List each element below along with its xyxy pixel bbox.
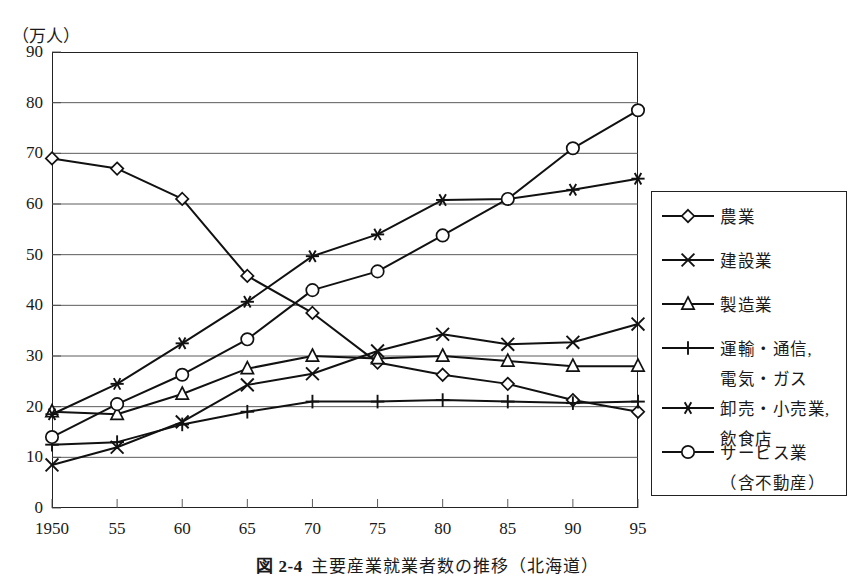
legend-item-5: 卸売・小売業,: [660, 396, 830, 420]
x-axis-tick-label: 65: [239, 520, 256, 537]
y-axis-tick-label: 30: [3, 347, 43, 364]
y-axis-tick-label: 70: [3, 144, 43, 161]
marker-diamond: [436, 369, 448, 381]
legend-item-label: 農業: [720, 204, 755, 228]
marker-circle: [46, 431, 58, 443]
marker-triangle: [437, 349, 449, 361]
legend-symbol-circle: [660, 441, 716, 463]
chart-svg: [52, 52, 638, 508]
legend-item-label: 運輸・通信,: [720, 336, 812, 360]
legend-item-2: 建設業: [660, 248, 773, 272]
marker-circle: [241, 333, 253, 345]
y-axis-tick-label: 90: [3, 43, 43, 60]
legend-item-label: 製造業: [720, 292, 773, 316]
legend-symbol-cross: [660, 249, 716, 271]
legend-symbol-wrap: [660, 205, 716, 227]
legend-item-label: サービス業: [720, 440, 808, 464]
legend-item-label: 卸売・小売業,: [720, 396, 830, 420]
legend-symbol-diamond: [660, 205, 716, 227]
series-line: [52, 356, 638, 414]
marker-circle: [306, 284, 318, 296]
marker-circle: [502, 193, 514, 205]
x-axis-tick-label: 80: [434, 520, 451, 537]
legend-symbol-wrap: [660, 397, 716, 419]
marker-triangle: [306, 349, 318, 361]
figure-caption: 図 2-4主要産業就業者数の推移（北海道）: [0, 552, 855, 577]
marker-circle: [632, 104, 644, 116]
series-line: [52, 158, 638, 411]
x-axis-tick-label: 95: [630, 520, 647, 537]
legend-item-4: 運輸・通信,: [660, 336, 812, 360]
y-axis-tick-label: 50: [3, 246, 43, 263]
figure-caption-text: 主要産業就業者数の推移（北海道）: [311, 557, 599, 576]
x-axis-tick-label: 60: [174, 520, 191, 537]
legend-symbol-triangle: [660, 293, 716, 315]
y-axis-tick-label: 0: [3, 499, 43, 516]
marker-diamond: [111, 162, 123, 174]
x-axis-tick-label: 85: [499, 520, 516, 537]
legend-item-3: 製造業: [660, 292, 773, 316]
series-3: [46, 349, 644, 419]
marker-circle: [436, 229, 448, 241]
legend-item-label-line2: （含不動産）: [720, 470, 825, 494]
legend-symbol-plus: [660, 337, 716, 359]
x-axis-tick-label: 75: [369, 520, 386, 537]
figure-number: 図 2-4: [256, 557, 302, 576]
y-axis-tick-label: 40: [3, 296, 43, 313]
legend-symbol-wrap: [660, 337, 716, 359]
legend-item-6: サービス業: [660, 440, 808, 464]
series-line: [52, 110, 638, 437]
x-axis-tick-label: 70: [304, 520, 321, 537]
legend-symbol-wrap: [660, 249, 716, 271]
marker-circle: [682, 446, 694, 458]
marker-circle: [111, 398, 123, 410]
x-axis-tick-label: 1950: [35, 520, 69, 537]
legend-item-1: 農業: [660, 204, 755, 228]
chart-plot-area: [52, 52, 638, 508]
legend-symbol-wrap: [660, 293, 716, 315]
x-axis-tick-label: 90: [564, 520, 581, 537]
y-axis-tick-label: 20: [3, 398, 43, 415]
series-6: [46, 104, 644, 443]
series-5: [45, 173, 644, 420]
y-axis-tick-label: 80: [3, 94, 43, 111]
marker-circle: [176, 369, 188, 381]
marker-diamond: [46, 152, 58, 164]
legend-symbol-asterisk: [660, 397, 716, 419]
series-line: [52, 179, 638, 415]
legend-item-label: 建設業: [720, 248, 773, 272]
legend-item-label-line2: 電気・ガス: [720, 366, 808, 390]
marker-diamond: [502, 378, 514, 390]
x-axis-tick-label: 55: [109, 520, 126, 537]
marker-circle: [371, 265, 383, 277]
marker-diamond: [682, 210, 694, 222]
legend-symbol-wrap: [660, 441, 716, 463]
chart-legend: 農業建設業製造業運輸・通信,電気・ガス卸売・小売業,飲食店サービス業（含不動産）: [651, 191, 847, 496]
y-axis-tick-label: 10: [3, 448, 43, 465]
marker-circle: [567, 142, 579, 154]
y-axis-tick-label: 60: [3, 195, 43, 212]
series-4: [45, 393, 645, 451]
